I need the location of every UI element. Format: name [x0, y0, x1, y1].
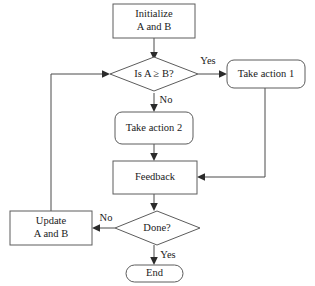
edge-label-compare-no: No [160, 94, 173, 105]
update-label-line2: A and B [34, 228, 68, 239]
initialize-label-line2: A and B [137, 21, 171, 32]
connector-feedback-to-done [150, 194, 158, 211]
connector-compare-yes-to-action1 [198, 70, 227, 78]
end-label: End [146, 267, 164, 278]
flowchart-canvas: Initialize A and B Is A ≥ B? Take action… [0, 0, 315, 286]
node-initialize[interactable]: Initialize A and B [113, 4, 195, 38]
node-take-action-1[interactable]: Take action 1 [227, 60, 305, 88]
update-label-line1: Update [36, 215, 67, 226]
connector-compare-no-to-action2 [150, 93, 158, 112]
take-action-2-label: Take action 2 [126, 122, 182, 133]
connector-done-yes-to-end [150, 245, 158, 265]
node-update[interactable]: Update A and B [10, 211, 92, 245]
flowchart-svg: Initialize A and B Is A ≥ B? Take action… [0, 0, 315, 286]
connector-done-no-to-update [92, 224, 115, 232]
node-decision-compare[interactable]: Is A ≥ B? [110, 57, 198, 91]
node-end[interactable]: End [126, 265, 183, 282]
connector-action2-to-feedback [150, 144, 158, 161]
node-take-action-2[interactable]: Take action 2 [115, 112, 193, 144]
connector-update-to-compare [51, 70, 110, 211]
connector-action1-to-feedback [197, 88, 265, 181]
decision-done-label: Done? [143, 222, 171, 233]
edge-label-done-yes: Yes [160, 249, 175, 260]
edge-label-done-no: No [100, 212, 113, 223]
node-feedback[interactable]: Feedback [113, 161, 197, 194]
initialize-label-line1: Initialize [135, 8, 173, 19]
node-decision-done[interactable]: Done? [115, 211, 200, 245]
decision-compare-label: Is A ≥ B? [134, 68, 174, 79]
take-action-1-label: Take action 1 [238, 68, 294, 79]
edge-label-compare-yes: Yes [200, 55, 215, 66]
feedback-label: Feedback [135, 171, 176, 182]
